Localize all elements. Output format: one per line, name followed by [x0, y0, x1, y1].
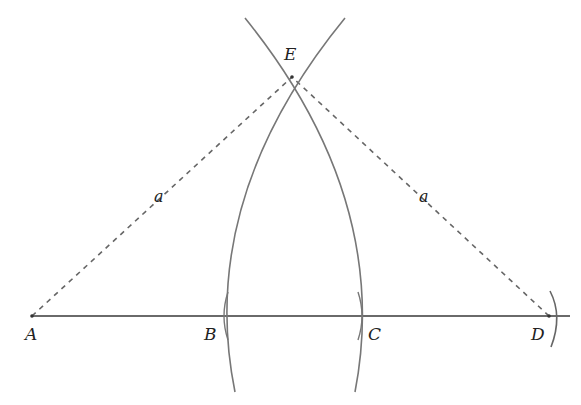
- label-D: D: [530, 324, 545, 344]
- label-C: C: [368, 324, 381, 344]
- label-segment-DE: a: [419, 187, 429, 206]
- label-segment-AE: a: [154, 187, 164, 206]
- point-A-dot: [30, 314, 34, 318]
- point-D-dot: [547, 314, 551, 318]
- label-E: E: [283, 44, 297, 64]
- tick-arc-D: [550, 291, 557, 347]
- construction-diagram: A B C D E a a: [0, 0, 581, 405]
- label-B: B: [203, 324, 217, 344]
- point-E-dot: [290, 75, 294, 79]
- label-A: A: [23, 324, 37, 344]
